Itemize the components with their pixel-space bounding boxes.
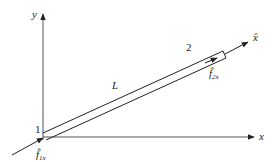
y-axis-label: y: [31, 8, 37, 20]
bar-element: [43, 51, 226, 140]
x-axis-label: x: [258, 130, 264, 142]
force-1-label: f̂1x: [36, 148, 47, 162]
local-x-hat-axis: [205, 42, 248, 63]
force-2-label: f̂2x: [209, 67, 220, 81]
local-axis-label: x̂: [252, 31, 258, 43]
length-label: L: [111, 79, 118, 91]
node-1-label: 1: [35, 123, 41, 135]
truss-element-diagram: y x x̂ 1 2 L f̂2x f̂1x: [0, 0, 277, 162]
node-2-label: 2: [186, 41, 192, 53]
